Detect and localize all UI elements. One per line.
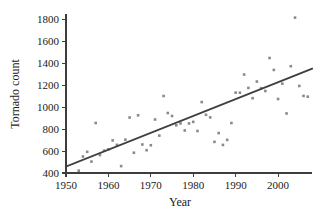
x-axis: 195019601970198019902000 Year [55,173,312,209]
data-point [111,139,114,142]
data-point [213,141,216,144]
data-point [90,160,93,163]
y-axis-title: Tornado count [8,59,22,129]
data-point [230,122,233,125]
data-point [94,122,97,125]
data-point [273,69,276,72]
data-point [192,121,195,124]
data-point [77,169,80,172]
data-point [200,101,203,104]
data-point [150,144,153,147]
data-point [247,87,250,90]
data-point [306,95,309,98]
data-point [183,129,186,132]
x-tick-marks [66,173,278,177]
data-point [133,151,136,154]
data-point [120,165,123,168]
y-tick-label: 400 [43,167,60,179]
data-point [302,95,305,98]
x-tick-label: 1990 [225,179,248,191]
x-tick-label: 1960 [97,179,120,191]
y-tick-label: 1400 [37,57,60,69]
y-tick-label: 1200 [37,79,60,91]
data-point [158,134,161,137]
x-tick-label: 1950 [55,179,78,191]
y-tick-label: 800 [43,123,60,135]
data-point [239,91,242,94]
data-point [251,97,254,100]
data-point [234,91,237,94]
data-point [289,65,292,68]
data-point [196,130,199,133]
data-point [243,73,246,76]
data-point [277,98,280,101]
data-point [281,82,284,85]
data-point [222,144,225,147]
chart-canvas: 40060080010001200140016001800 Tornado co… [0,0,327,213]
data-point [154,118,157,121]
data-point [179,122,182,125]
data-point [82,155,85,158]
y-tick-label: 1800 [37,13,60,25]
data-point [188,122,191,125]
data-point [166,112,169,115]
data-point [209,116,212,119]
data-point [137,114,140,117]
y-axis: 40060080010001200140016001800 Tornado co… [8,13,66,179]
data-point [285,112,288,115]
data-point [171,115,174,118]
data-point [86,151,89,154]
data-point [294,16,297,19]
data-point [124,138,127,141]
data-point [264,90,267,93]
data-point [268,57,271,60]
x-tick-labels: 195019601970198019902000 [55,179,290,191]
data-point [145,149,148,152]
y-tick-label: 1600 [37,35,60,47]
x-axis-title: Year [169,195,191,209]
data-point [141,143,144,146]
data-point [128,116,131,119]
y-tick-labels: 40060080010001200140016001800 [37,13,60,179]
tornado-count-scatter-chart: 40060080010001200140016001800 Tornado co… [0,0,327,213]
data-point [226,139,229,142]
x-tick-label: 1970 [140,179,163,191]
data-point [298,85,301,88]
y-tick-label: 1000 [37,101,60,113]
y-tick-label: 600 [43,145,60,157]
data-point [256,80,259,83]
x-tick-label: 2000 [267,179,290,191]
data-point [217,132,220,135]
regression-line [66,69,312,167]
data-point [205,113,208,116]
data-point [175,124,178,127]
x-tick-label: 1980 [182,179,205,191]
data-point [162,95,165,98]
